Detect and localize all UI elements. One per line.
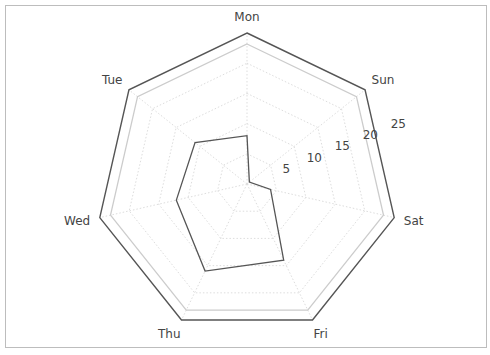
radar-chart: 510152025MonSunSatFriThuWedTue [0,0,490,355]
chart-frame [5,5,487,348]
